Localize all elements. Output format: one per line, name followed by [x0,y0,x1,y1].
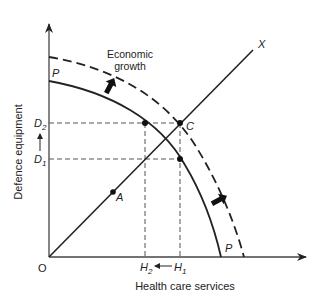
annotation-economic: Economic [107,48,153,60]
label-p-top: P [52,67,60,79]
label-point-c: C [186,120,194,132]
annotation-growth: growth [114,60,146,72]
point-c [177,120,183,126]
label-x-ray: X [257,38,266,50]
label-p-bottom: P [225,242,233,254]
ray-ox [49,50,253,257]
label-point-a: A [115,191,123,203]
label-d2: D2 [34,117,47,132]
label-d1: D1 [34,153,46,168]
point-d1-h1 [177,156,183,162]
y-axis-title: Defence equipment [12,104,24,199]
label-h2: H2 [140,261,153,276]
label-h1: H1 [174,261,186,276]
ppf-diagram: P P X A C O D2 D1 H2 H1 Economic growth … [0,0,319,303]
point-d2-h2 [142,120,148,126]
point-a [110,189,116,195]
x-axis-title: Health care services [135,280,235,292]
label-origin: O [38,262,47,274]
